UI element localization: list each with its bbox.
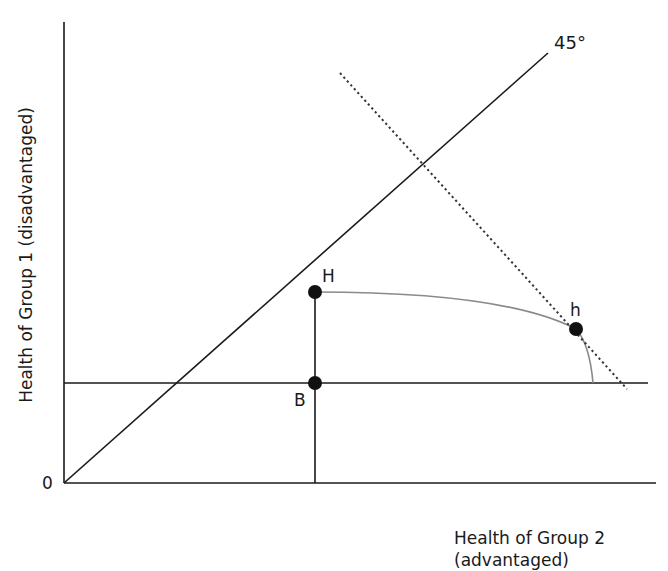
origin-label: 0 bbox=[42, 473, 53, 493]
dotted-tangent-line bbox=[340, 73, 627, 389]
point-B-label: B bbox=[294, 390, 306, 410]
health-frontier-curve bbox=[315, 292, 593, 383]
point-h-label: h bbox=[570, 300, 581, 320]
point-H-marker bbox=[308, 285, 322, 299]
x-axis-label: Health of Group 2 (advantaged) bbox=[454, 527, 605, 571]
point-H-label: H bbox=[322, 266, 335, 286]
x-axis-label-line1: Health of Group 2 bbox=[454, 527, 605, 549]
angle-label-45: 45° bbox=[554, 33, 586, 53]
equality-line-45 bbox=[64, 53, 548, 483]
point-h-marker bbox=[569, 322, 583, 336]
x-axis-label-line2: (advantaged) bbox=[454, 549, 605, 571]
point-B-marker bbox=[308, 376, 322, 390]
y-axis-label: Health of Group 1 (disadvantaged) bbox=[16, 107, 36, 403]
